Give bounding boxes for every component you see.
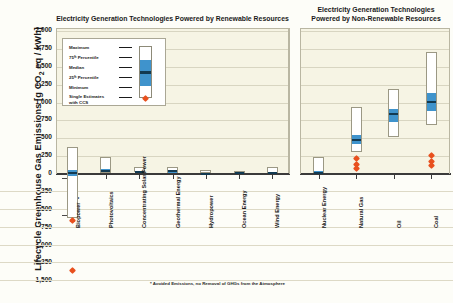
median-line [352,139,361,141]
box-whisker[interactable] [351,107,362,153]
gridline [0,227,453,228]
legend-dash-maximum [119,47,132,48]
box-whisker[interactable] [313,157,324,173]
x-axis-tick [106,175,107,179]
gridline [301,138,449,139]
gridline [0,245,453,246]
median-line [235,172,244,174]
gridline [57,31,288,32]
y-axis-tick-label: 1,250 [20,80,52,87]
legend-ccs-diamond-icon [141,95,148,102]
panel-title-renewable: Electricity Generation Technologies Powe… [56,14,289,23]
legend-label-25-percentile: 25ᵗʰ Percentile [69,75,99,80]
ccs-estimate-marker[interactable] [69,267,76,274]
panel-edge [56,28,57,174]
x-axis-label-geothermal-energy: Geothermal Energy [175,176,181,228]
x-axis-tick [356,175,357,179]
y-axis-tick-label: 2,000 [20,26,52,33]
y-axis-tick-label: 250 [20,151,52,158]
x-axis-label-oil: Oil [396,221,402,228]
legend: Maximum 75ᵗʰ Percentile Median 25ᵗʰ Perc… [62,38,166,106]
panel-title-nonrenewable: Electricity Generation Technologies Powe… [300,5,452,23]
median-line [101,170,110,172]
legend-label-median: Median [69,65,84,70]
x-axis-label-hydropower: Hydropower [208,195,214,228]
panel-edge [289,28,290,174]
median-line [168,170,177,172]
legend-dash-minimum [119,87,132,88]
x-axis-tick [206,175,207,179]
panel-edge [300,28,301,174]
gridline [57,120,288,121]
box-whisker[interactable] [200,170,211,173]
y-axis-title-subscript: 2 [38,71,45,75]
x-axis-label-natural-gas: Natural Gas [358,197,364,228]
gridline [0,280,453,281]
x-axis-label-wind-energy: Wind Energy [274,194,280,228]
x-axis-tick [272,175,273,179]
legend-dash-75-percentile [119,57,132,58]
median-line [201,173,210,175]
gridline [0,262,453,263]
box-whisker[interactable] [267,167,278,173]
x-axis-tick [319,175,320,179]
gridline [57,138,288,139]
y-axis-tick-label: 1,500 [20,62,52,69]
legend-label-75-percentile: 75ᵗʰ Percentile [69,55,99,60]
x-axis-tick [173,175,174,179]
median-line [268,172,277,174]
chart-figure: Lifecycle Greenhouse Gas Emissions [g CO… [0,0,453,303]
iqr-band [389,109,398,122]
x-axis-tick [431,175,432,179]
median-line [427,101,436,103]
gridline [301,31,449,32]
legend-dash-25-percentile [119,77,132,78]
x-axis-label-biopower: Biopower [75,203,81,228]
x-axis-label-ocean-energy: Ocean Energy [241,190,247,228]
x-axis-label-concentrating-solar-power: Concentrating Solar Power [141,156,147,228]
legend-label-minimum: Minimum [69,85,88,90]
legend-median-line [140,71,151,74]
box-whisker[interactable] [388,89,399,136]
box-whisker[interactable] [234,171,245,173]
y-axis-tick-label: 750 [20,115,52,122]
x-axis-tick [394,175,395,179]
x-axis-label-coal: Coal [433,216,439,228]
y-axis-tick-label: 0 [20,169,52,176]
legend-label-ccs-line1: Single Estimates [69,94,104,99]
legend-label-maximum: Maximum [69,45,89,50]
box-whisker[interactable] [426,52,437,125]
x-axis-tick [239,175,240,179]
gridline [301,49,449,50]
box-whisker[interactable] [167,167,178,172]
legend-dash-median [119,67,132,68]
y-axis-tick-label: 1,000 [20,98,52,105]
box-whisker[interactable] [100,157,111,172]
panel-title-nonrenewable-line1: Electricity Generation Technologies [300,5,452,14]
legend-dash-ccs [119,97,132,98]
x-axis-label-photovoltaics: Photovoltaics [108,191,114,228]
legend-label-ccs-line2: with CCS [69,100,88,105]
y-axis-tick-label: 500 [20,133,52,140]
y-axis-tick-label: 1,750 [20,44,52,51]
median-line [68,172,77,174]
median-line [389,113,398,115]
chart-footnote: * Avoided Emissions, no Removal of GHGs … [150,281,285,286]
median-line [314,172,323,174]
panel-edge [449,28,450,174]
gridline [57,156,288,157]
x-axis-label-nuclear-energy: Nuclear Energy [321,187,327,228]
legend-box-swatch [139,46,152,98]
panel-title-nonrenewable-line2: Powered by Non-Renewable Resources [300,14,452,23]
